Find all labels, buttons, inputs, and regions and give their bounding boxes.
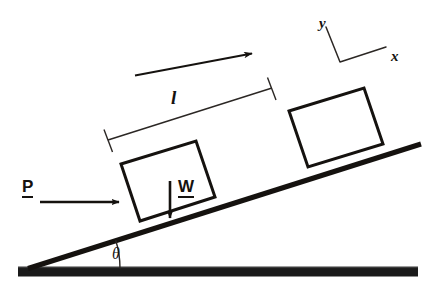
- axis-x-label: x: [391, 49, 399, 64]
- force-p-text: P: [22, 177, 33, 196]
- coordinate-axes: [326, 27, 386, 62]
- weight-w-text: W: [178, 177, 194, 196]
- inclined-plane-diagram: P W l x y θ: [0, 0, 430, 298]
- weight-w-underline: [178, 196, 194, 198]
- block-final-position: [289, 88, 383, 167]
- incline-surface: [28, 144, 421, 269]
- dimension-tick-left: [104, 130, 113, 153]
- block-initial-position: [121, 141, 215, 221]
- ground-bar: [18, 267, 418, 277]
- axis-y-label: y: [319, 16, 326, 31]
- motion-direction-arrow: [135, 54, 252, 76]
- angle-theta-label: θ: [112, 246, 120, 262]
- force-p-underline: [22, 196, 33, 198]
- force-p-label: P: [22, 178, 33, 198]
- displacement-dimension-line: [104, 78, 276, 153]
- distance-l-label: l: [171, 88, 176, 107]
- diagram-canvas: [0, 0, 430, 298]
- weight-w-label: W: [178, 178, 194, 198]
